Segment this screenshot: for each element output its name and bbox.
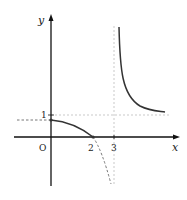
axes — [14, 14, 180, 186]
right-branch-solid — [119, 27, 165, 112]
origin-label: O — [39, 143, 46, 153]
x-axis-label: x — [172, 141, 179, 154]
x-axis-arrow-icon — [173, 135, 180, 140]
point-x-intercept — [91, 135, 94, 138]
y-tick-label-1: 1 — [41, 110, 47, 120]
x-tick-label-3: 3 — [111, 143, 117, 153]
left-branch-solid — [51, 120, 93, 137]
left-branch-dashed — [93, 137, 111, 184]
y-axis-label: y — [37, 14, 45, 27]
x-tick-label-2: 2 — [88, 143, 94, 153]
y-axis-arrow-icon — [49, 14, 54, 21]
asymptotes — [51, 26, 170, 186]
point-y-intercept — [49, 118, 52, 121]
tick-marks — [48, 115, 114, 139]
function-graph: y x O 1 2 3 — [0, 0, 187, 200]
